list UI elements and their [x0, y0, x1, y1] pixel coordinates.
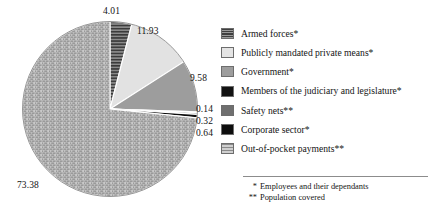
pie-value-label-publicly-mandated: 11.93 [137, 26, 159, 36]
footnote-item: **Population covered [243, 192, 433, 203]
legend-item[interactable]: Armed forces* [221, 24, 435, 43]
legend-label: Armed forces* [241, 29, 298, 39]
legend-label: Safety nets** [241, 106, 293, 116]
footnote-divider [243, 176, 428, 177]
pie-value-label-corporate-sector: 0.64 [196, 128, 213, 138]
legend-label: Publicly mandated private means* [241, 48, 373, 58]
legend-item[interactable]: Government* [221, 62, 435, 81]
footnote-item: *Employees and their dependants [243, 181, 433, 192]
legend-label: Corporate sector* [241, 125, 309, 135]
pie-value-label-government: 9.58 [190, 73, 207, 83]
footnotes: *Employees and their dependants**Populat… [243, 176, 433, 203]
footnote-marker: * [243, 181, 257, 192]
legend: Armed forces*Publicly mandated private m… [221, 24, 435, 158]
legend-label: Government* [241, 67, 294, 77]
legend-swatch-icon [221, 28, 234, 39]
legend-swatch-icon [221, 143, 234, 154]
footnote-list: *Employees and their dependants**Populat… [243, 181, 433, 203]
legend-label: Out-of-pocket payments** [241, 144, 344, 154]
pie-plot-area: 4.01 11.93 9.58 0.14 0.32 0.64 73.38 [0, 0, 232, 220]
legend-item[interactable]: Members of the judiciary and legislature… [221, 82, 435, 101]
pie-value-label-safety-nets: 0.32 [196, 116, 213, 126]
pie-value-label-armed-forces: 4.01 [103, 6, 120, 16]
footnote-marker: ** [243, 192, 257, 203]
legend-item[interactable]: Safety nets** [221, 101, 435, 120]
legend-swatch-icon [221, 86, 234, 97]
legend-swatch-icon [221, 105, 234, 116]
legend-item[interactable]: Corporate sector* [221, 120, 435, 139]
footnote-text: Employees and their dependants [260, 181, 369, 192]
legend-swatch-icon [221, 124, 234, 135]
legend-item[interactable]: Out-of-pocket payments** [221, 139, 435, 158]
legend-swatch-icon [221, 47, 234, 58]
footnote-text: Population covered [260, 192, 325, 203]
pie-chart-figure: 4.01 11.93 9.58 0.14 0.32 0.64 73.38 Arm… [0, 0, 435, 220]
legend-label: Members of the judiciary and legislature… [241, 86, 402, 96]
legend-swatch-icon [221, 66, 234, 77]
legend-item[interactable]: Publicly mandated private means* [221, 43, 435, 62]
pie-value-label-out-of-pocket: 73.38 [17, 180, 39, 190]
pie-slices-group [23, 22, 198, 197]
pie-value-label-judiciary: 0.14 [196, 104, 213, 114]
